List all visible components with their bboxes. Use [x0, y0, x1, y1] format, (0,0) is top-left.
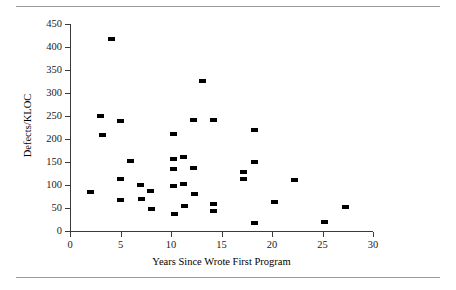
x-tick: [121, 232, 122, 237]
y-tick-label: 200: [34, 133, 62, 144]
y-tick: [65, 185, 70, 186]
data-point: [170, 132, 177, 136]
y-axis-title: Defects/KLOC: [22, 76, 33, 176]
data-point: [147, 189, 154, 193]
data-point: [210, 209, 217, 213]
y-axis-line: [70, 24, 71, 232]
data-point: [99, 133, 106, 137]
y-tick: [65, 47, 70, 48]
data-point: [170, 157, 177, 161]
y-tick: [65, 116, 70, 117]
y-tick: [65, 208, 70, 209]
data-point: [117, 177, 124, 181]
y-tick: [65, 93, 70, 94]
x-tick: [70, 232, 71, 237]
x-tick-label: 0: [55, 239, 85, 250]
x-tick-label: 5: [106, 239, 136, 250]
figure-container: 050100150200250300350400450 051015202530…: [0, 0, 456, 290]
y-tick: [65, 162, 70, 163]
data-point: [251, 128, 258, 132]
x-tick: [323, 232, 324, 237]
x-tick: [373, 232, 374, 237]
data-point: [148, 207, 155, 211]
data-point: [180, 155, 187, 159]
data-point: [342, 205, 349, 209]
data-point: [108, 37, 115, 41]
y-tick-label: 350: [34, 64, 62, 75]
data-point: [87, 190, 94, 194]
data-point: [138, 197, 145, 201]
y-tick-label: 0: [34, 225, 62, 236]
data-point: [291, 178, 298, 182]
data-point: [117, 198, 124, 202]
y-tick: [65, 24, 70, 25]
data-point: [170, 167, 177, 171]
data-point: [251, 160, 258, 164]
y-tick-label: 100: [34, 179, 62, 190]
x-tick-label: 15: [207, 239, 237, 250]
data-point: [210, 118, 217, 122]
x-tick: [171, 232, 172, 237]
y-tick: [65, 139, 70, 140]
x-tick-label: 25: [308, 239, 338, 250]
data-point: [190, 166, 197, 170]
data-point: [199, 79, 206, 83]
x-tick-label: 20: [257, 239, 287, 250]
data-point: [190, 118, 197, 122]
data-point: [240, 177, 247, 181]
x-tick-label: 10: [156, 239, 186, 250]
data-point: [180, 182, 187, 186]
data-point: [240, 170, 247, 174]
x-axis-title: Years Since Wrote First Program: [70, 256, 373, 267]
data-point: [97, 114, 104, 118]
y-tick-label: 400: [34, 41, 62, 52]
y-tick-label: 450: [34, 18, 62, 29]
data-point: [117, 119, 124, 123]
y-tick-label: 150: [34, 156, 62, 167]
y-tick-label: 250: [34, 110, 62, 121]
data-point: [127, 159, 134, 163]
data-point: [191, 192, 198, 196]
scatter-plot: 050100150200250300350400450 051015202530…: [0, 0, 456, 290]
data-point: [210, 202, 217, 206]
y-tick: [65, 70, 70, 71]
data-point: [321, 220, 328, 224]
data-point: [271, 200, 278, 204]
y-tick-label: 50: [34, 202, 62, 213]
data-point: [181, 204, 188, 208]
x-tick-label: 30: [358, 239, 388, 250]
x-tick: [272, 232, 273, 237]
data-point: [251, 221, 258, 225]
x-tick: [222, 232, 223, 237]
y-tick-label: 300: [34, 87, 62, 98]
data-point: [170, 184, 177, 188]
data-point: [137, 183, 144, 187]
data-point: [171, 212, 178, 216]
